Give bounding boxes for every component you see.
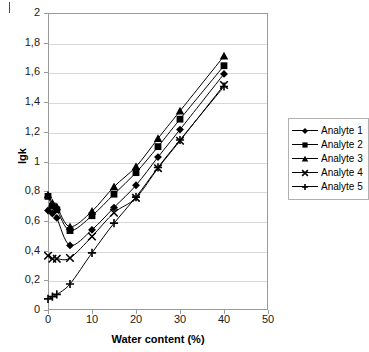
series-line	[48, 66, 224, 231]
series-5	[44, 82, 228, 303]
x-axis-tick-label: 10	[72, 314, 112, 325]
data-point-square	[155, 143, 162, 150]
y-axis-tick-label: 0,6	[0, 215, 40, 226]
legend-marker-diamond-icon	[292, 124, 318, 138]
y-axis-tick-label: 1,8	[0, 37, 40, 48]
legend-label: Analyte 2	[318, 140, 363, 150]
legend-item-1[interactable]: Analyte 1	[292, 124, 363, 138]
legend-marker-glyph	[301, 155, 309, 163]
data-point-triangle	[220, 52, 229, 60]
series-line	[48, 87, 224, 299]
legend-label: Analyte 1	[318, 126, 363, 136]
legend-marker-cross-x-icon	[292, 166, 318, 180]
x-axis-title: Water content (%)	[48, 333, 268, 345]
data-point-cross-x	[66, 254, 73, 261]
legend-item-3[interactable]: Analyte 3	[292, 152, 363, 166]
data-point-plus	[302, 184, 308, 190]
y-axis-tick-label: 1,6	[0, 66, 40, 77]
x-axis-tick-label: 50	[248, 314, 288, 325]
legend-item-2[interactable]: Analyte 2	[292, 138, 363, 152]
series-3	[44, 52, 229, 230]
y-axis-tick-label: 0,8	[0, 185, 40, 196]
data-point-square	[221, 62, 228, 69]
x-axis-tick-mark	[180, 310, 181, 314]
legend-marker-triangle-icon	[292, 152, 318, 166]
data-point-cross-x	[44, 252, 51, 259]
data-point-plus	[88, 249, 96, 257]
x-axis-tick-label: 40	[204, 314, 244, 325]
series-layer	[48, 13, 268, 310]
legend-label: Analyte 4	[318, 168, 363, 178]
x-axis-tick-label: 20	[116, 314, 156, 325]
y-axis-tick-label: 1,4	[0, 96, 40, 107]
series-1	[44, 70, 228, 249]
data-point-square	[302, 142, 307, 147]
legend-item-4[interactable]: Analyte 4	[292, 166, 363, 180]
legend: Analyte 1Analyte 2Analyte 3Analyte 4Anal…	[288, 118, 369, 200]
legend-marker-square-icon	[292, 138, 318, 152]
x-axis-tick-label: 30	[160, 314, 200, 325]
y-axis-tick-label: 0,4	[0, 245, 40, 256]
series-2	[45, 62, 228, 234]
data-point-cross-x	[302, 170, 308, 176]
x-axis-tick-mark	[224, 310, 225, 314]
legend-marker-glyph	[301, 169, 309, 177]
data-point-diamond	[302, 128, 308, 134]
x-axis-tick-mark	[92, 310, 93, 314]
x-axis-tick-mark	[136, 310, 137, 314]
data-point-triangle	[302, 156, 309, 162]
y-axis-title: lgk	[16, 126, 28, 186]
y-axis-tick-label: 0,2	[0, 274, 40, 285]
y-axis-tick-label: 2	[0, 7, 40, 18]
data-point-square	[111, 191, 118, 198]
legend-marker-glyph	[301, 141, 309, 149]
data-point-square	[133, 169, 140, 176]
legend-marker-plus-icon	[292, 180, 318, 194]
series-line	[48, 56, 224, 227]
data-point-cross-x	[88, 233, 95, 240]
legend-marker-glyph	[301, 127, 309, 135]
legend-label: Analyte 5	[318, 182, 363, 192]
legend-marker-glyph	[301, 183, 309, 191]
series-line	[48, 74, 224, 246]
x-axis-tick-mark	[268, 310, 269, 314]
legend-item-5[interactable]: Analyte 5	[292, 180, 363, 194]
x-axis-tick-mark	[48, 310, 49, 314]
data-point-square	[177, 116, 184, 123]
x-axis-tick-label: 0	[28, 314, 68, 325]
legend-label: Analyte 3	[318, 154, 363, 164]
